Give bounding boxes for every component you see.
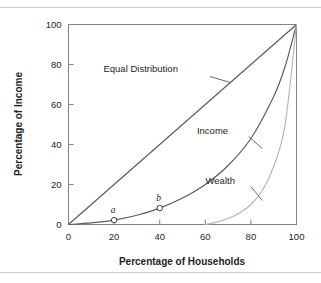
series-line-equal-distribution <box>69 25 297 225</box>
y-axis-tick-labels: 020406080100 <box>46 19 62 230</box>
leader-line-equal-distribution <box>210 77 231 83</box>
x-tick-label: 20 <box>109 231 120 242</box>
y-axis-ticks <box>69 65 74 185</box>
chart-canvas: 020406080100 020406080100 Equal Distribu… <box>0 0 321 283</box>
series-label-wealth: Wealth <box>206 175 235 186</box>
x-tick-label: 60 <box>200 231 211 242</box>
data-point-marker-b <box>157 205 162 210</box>
x-axis-ticks <box>114 220 251 225</box>
leader-line-income <box>249 137 263 149</box>
x-axis-title: Percentage of Households <box>119 256 246 267</box>
x-tick-label: 100 <box>289 231 305 242</box>
x-tick-label: 80 <box>246 231 257 242</box>
series-label-equal-distribution: Equal Distribution <box>103 63 177 74</box>
series-label-income: Income <box>197 125 228 136</box>
series-annotation-labels: Equal DistributionIncomeWealth <box>103 63 234 186</box>
y-tick-label: 100 <box>46 19 62 30</box>
data-point-markers <box>111 205 162 222</box>
y-tick-label: 60 <box>51 99 62 110</box>
y-tick-label: 80 <box>51 59 62 70</box>
y-tick-label: 20 <box>51 179 62 190</box>
y-tick-label: 40 <box>51 139 62 150</box>
x-tick-label: 0 <box>66 231 71 242</box>
y-axis-title: Percentage of Income <box>13 72 24 176</box>
data-point-marker-a <box>111 217 116 222</box>
data-series-group <box>69 25 297 225</box>
point-letter-labels: ab <box>111 193 162 215</box>
point-label-b: b <box>156 193 161 203</box>
lorenz-curve-figure: 020406080100 020406080100 Equal Distribu… <box>0 0 321 283</box>
y-tick-label: 0 <box>56 219 61 230</box>
x-tick-label: 40 <box>154 231 165 242</box>
point-label-a: a <box>111 205 116 215</box>
x-axis-tick-labels: 020406080100 <box>66 231 305 242</box>
